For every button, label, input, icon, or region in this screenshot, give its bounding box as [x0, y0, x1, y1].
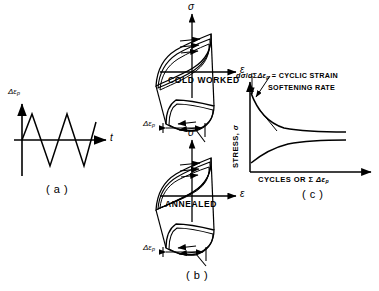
- panel-c-softening-curve: [251, 93, 346, 132]
- panel-c-tangent-line: [258, 108, 277, 131]
- panel-a-caption: ( a ): [46, 184, 68, 195]
- panel-a-y-axis-label: Δεp: [8, 88, 20, 97]
- annealed-arrow-3: [181, 175, 198, 177]
- cold-worked-label: COLD WORKED: [168, 76, 240, 85]
- annealed-width-label: Δεp: [143, 244, 155, 253]
- cold-worked-arrow-4: [178, 122, 196, 124]
- panel-c-hardening-curve: [251, 140, 346, 163]
- annealed-label: ANNEALED: [165, 200, 217, 209]
- panel-a-x-axis-label: t: [110, 133, 113, 143]
- panel-c-annotation-line-1: dσ/dΣΔεp = CYCLIC STRAIN: [236, 72, 338, 81]
- cold-worked-width-label: Δεp: [143, 120, 155, 129]
- panel-c-y-axis-label: STRESS, σ: [232, 125, 240, 168]
- figure-canvas: Δεp t ( a ) σ ε COLD WORKED Δεp σ ε ANNE…: [0, 0, 379, 291]
- panel-c-caption: ( c ): [302, 189, 323, 200]
- figure-vector-graphics: [0, 0, 379, 291]
- annealed-y-axis-label: σ: [188, 128, 194, 138]
- annealed-arrow-4: [178, 246, 196, 248]
- annealed-tail: [196, 254, 206, 266]
- cold-worked-flank-left: [156, 86, 166, 124]
- cold-worked-flank-right: [211, 34, 214, 106]
- panel-b-caption: ( b ): [186, 270, 208, 281]
- annealed-flank-right: [211, 158, 214, 230]
- panel-c-annotation-line-2: SOFTENING RATE: [268, 84, 335, 91]
- panel-c-x-axis-label: CYCLES OR Σ Δεp: [258, 176, 329, 184]
- panel-a-waveform: [14, 104, 106, 176]
- cold-worked-y-axis-label: σ: [188, 2, 194, 12]
- annealed-x-axis-label: ε: [240, 189, 244, 199]
- cold-worked-tail: [196, 130, 205, 142]
- annealed-flank-left: [156, 210, 166, 248]
